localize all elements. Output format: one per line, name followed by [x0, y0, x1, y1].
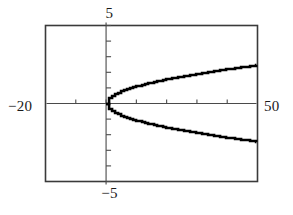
- x-axis: [47, 100, 257, 104]
- chart-figure: 5 −5 −20 50: [0, 0, 293, 215]
- plot-canvas: [0, 0, 293, 215]
